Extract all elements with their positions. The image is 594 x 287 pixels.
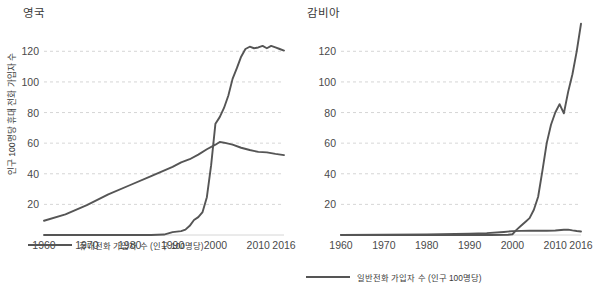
dual-line-chart-figure: 영국 인구 100명당 휴대 전화 가입자 수 2040608010012019…: [0, 0, 594, 287]
series-line-landline: [44, 142, 284, 221]
plot-area-uk: 2040608010012019601970198019902000201020…: [44, 36, 284, 235]
y-axis-tick-label: 20: [27, 198, 39, 210]
y-axis-tick-label: 80: [324, 107, 336, 119]
y-axis-tick-label: 20: [324, 198, 336, 210]
series-line-landline: [341, 230, 581, 235]
y-axis-tick-label: 80: [27, 107, 39, 119]
x-axis-tick-label: 2016: [569, 239, 592, 251]
legend-landline: 일반전화 가입자 수 (인구 100명당): [306, 271, 482, 283]
x-axis-tick-label: 1960: [329, 239, 352, 251]
legend-label-mobile: 휴대전화 가입자 수 (인구 100명당): [79, 239, 204, 251]
series-line-mobile: [44, 46, 284, 235]
plot-area-gambia: 2040608010012019601970198019902000201020…: [341, 36, 581, 235]
x-axis-tick-label: 1980: [415, 239, 438, 251]
y-axis-tick-label: 120: [21, 45, 39, 57]
y-axis-tick-label: 40: [324, 168, 336, 180]
x-axis-tick-label: 1970: [372, 239, 395, 251]
y-axis-label: 인구 100명당 휴대 전화 가입자 수: [5, 19, 17, 209]
x-axis-tick-label: 1990: [458, 239, 481, 251]
series-line-mobile: [341, 24, 581, 235]
x-axis-tick-label: 2000: [501, 239, 524, 251]
legend-swatch-landline-icon: [306, 276, 350, 279]
chart-panel-gambia: 감비아 204060801001201960197019801990200020…: [297, 0, 594, 255]
x-axis-tick-label: 2000: [204, 239, 227, 251]
y-axis-tick-label: 120: [318, 45, 336, 57]
legend-mobile: 휴대전화 가입자 수 (인구 100명당): [28, 239, 204, 251]
chart-title-uk: 영국: [23, 4, 45, 20]
y-axis-tick-label: 40: [27, 168, 39, 180]
plot-svg-uk: [44, 36, 284, 235]
x-axis-tick-label: 2010: [247, 239, 270, 251]
y-axis-tick-label: 100: [318, 76, 336, 88]
legend-swatch-mobile-icon: [28, 244, 72, 247]
legend-label-landline: 일반전화 가입자 수 (인구 100명당): [357, 271, 482, 283]
x-axis-tick-label: 2010: [544, 239, 567, 251]
y-axis-tick-label: 60: [324, 137, 336, 149]
y-axis-tick-label: 100: [21, 76, 39, 88]
chart-title-gambia: 감비아: [307, 4, 341, 20]
chart-panel-uk: 영국 인구 100명당 휴대 전화 가입자 수 2040608010012019…: [0, 0, 297, 255]
y-axis-tick-label: 60: [27, 137, 39, 149]
plot-svg-gambia: [341, 36, 581, 235]
x-axis-tick-label: 2016: [272, 239, 295, 251]
